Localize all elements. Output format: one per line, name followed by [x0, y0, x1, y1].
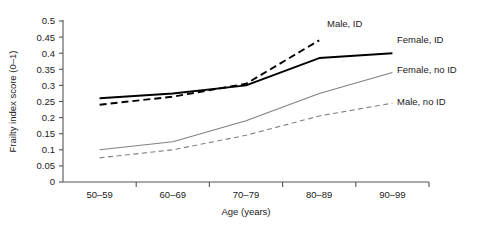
frailty-index-line-chart: 00.050.10.150.20.250.30.350.40.450.550–5…: [0, 0, 477, 234]
y-axis-tick-label: 0: [50, 176, 55, 187]
y-axis-tick-label: 0.2: [42, 112, 55, 123]
y-axis-tick-label: 0.25: [37, 96, 56, 107]
x-axis-tick-label: 50–59: [86, 189, 112, 200]
series-line-female-id: [100, 53, 393, 98]
y-axis-tick-label: 0.35: [37, 64, 56, 75]
series-label-3: Male, no ID: [397, 96, 446, 107]
x-axis-title: Age (years): [221, 206, 270, 217]
y-axis-title: Frailty index score (0–1): [7, 51, 18, 153]
y-axis-tick-label: 0.4: [42, 48, 55, 59]
series-label-2: Female, no ID: [397, 64, 457, 75]
x-axis-tick-label: 80–89: [306, 189, 332, 200]
series-label-1: Female, ID: [397, 34, 444, 45]
x-axis-tick-label: 60–69: [160, 189, 186, 200]
x-axis-tick-label: 90–99: [379, 189, 405, 200]
y-axis-tick-label: 0.15: [37, 128, 56, 139]
y-axis-tick-label: 0.05: [37, 160, 56, 171]
y-axis-tick-label: 0.3: [42, 80, 55, 91]
y-axis-tick-label: 0.5: [42, 15, 55, 26]
y-axis-tick-label: 0.1: [42, 144, 55, 155]
series-line-male-id: [100, 40, 320, 104]
y-axis-tick-label: 0.45: [37, 32, 56, 43]
x-axis-tick-label: 70–79: [233, 189, 259, 200]
chart-canvas: 00.050.10.150.20.250.30.350.40.450.550–5…: [0, 0, 477, 234]
series-label-0: Male, ID: [327, 18, 363, 29]
series-line-male-no-id: [100, 103, 393, 158]
